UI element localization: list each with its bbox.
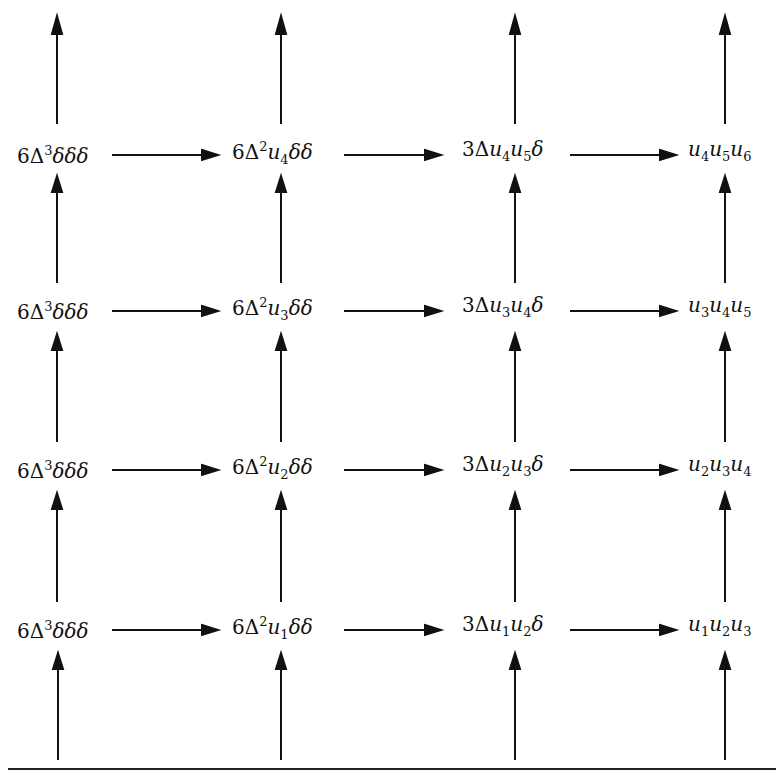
node-r3-c3: 3Δu3u4δ bbox=[462, 293, 544, 325]
node-r4-c3: 3Δu4u5δ bbox=[462, 137, 544, 169]
node-r2-c4: u2u3u4 bbox=[688, 452, 752, 484]
node-r3-c1: 6Δ3δδδ bbox=[17, 295, 89, 324]
bottom-rule bbox=[8, 768, 776, 770]
node-r1-c3: 3Δu1u2δ bbox=[462, 612, 544, 644]
node-r4-c4: u4u5u6 bbox=[688, 137, 752, 169]
node-r4-c2: 6Δ2u4δδ bbox=[232, 135, 313, 172]
node-r1-c2: 6Δ2u1δδ bbox=[232, 610, 313, 647]
node-r2-c2: 6Δ2u2δδ bbox=[232, 450, 313, 487]
node-r3-c2: 6Δ2u3δδ bbox=[232, 291, 313, 328]
node-r2-c1: 6Δ3δδδ bbox=[17, 454, 89, 483]
node-r4-c1: 6Δ3δδδ bbox=[17, 139, 89, 168]
diagram-arrows bbox=[0, 0, 776, 779]
node-r3-c4: u3u4u5 bbox=[688, 293, 752, 325]
node-r1-c4: u1u2u3 bbox=[688, 612, 752, 644]
node-r1-c1: 6Δ3δδδ bbox=[17, 614, 89, 643]
node-r2-c3: 3Δu2u3δ bbox=[462, 452, 544, 484]
